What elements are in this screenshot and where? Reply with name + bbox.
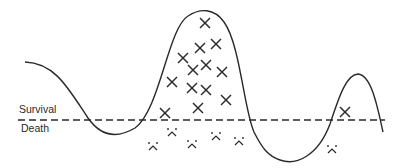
dead-individuals-group [148, 128, 337, 153]
survivor-x-icon [188, 65, 198, 75]
survivor-x-icon [178, 53, 188, 63]
death-label: Death [21, 123, 49, 134]
survivor-x-icon [201, 85, 211, 95]
survivor-x-icon [217, 67, 227, 77]
survivor-x-icon [187, 83, 197, 93]
survival-label: Survival [19, 104, 56, 115]
surviving-individuals-group [160, 18, 350, 118]
dead-frown-icon [187, 140, 197, 148]
survivor-x-icon [200, 18, 210, 28]
survivor-x-icon [340, 107, 350, 117]
fitness-landscape-curve [25, 11, 383, 162]
survivor-x-icon [160, 108, 170, 118]
survivor-x-icon [195, 43, 205, 53]
dead-frown-icon [234, 137, 244, 145]
dead-frown-icon [148, 142, 158, 150]
survivor-x-icon [167, 77, 177, 87]
survivor-x-icon [193, 103, 203, 113]
dead-frown-icon [327, 145, 337, 153]
survivor-x-icon [221, 95, 231, 105]
diagram-canvas [0, 0, 403, 168]
survivor-x-icon [211, 39, 221, 49]
dead-frown-icon [167, 128, 177, 136]
survivor-x-icon [201, 60, 211, 70]
dead-frown-icon [211, 132, 221, 140]
survival-diagram: Survival Death [0, 0, 403, 168]
